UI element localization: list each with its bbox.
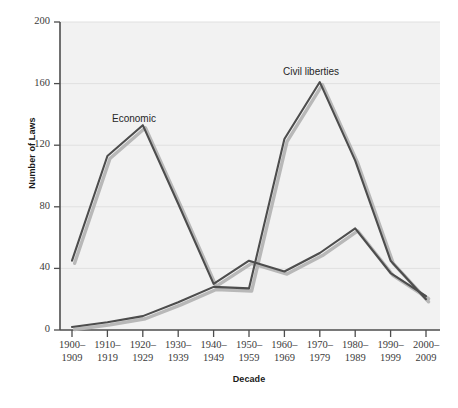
series-label-civil-liberties: Civil liberties: [283, 66, 339, 77]
x-tick-label-line2: 2009: [416, 352, 437, 363]
x-tick-label-line1: 2000–: [413, 339, 439, 350]
x-tick-label-line2: 1989: [345, 352, 366, 363]
x-tick-label: 2000–2009: [403, 339, 449, 364]
x-axis-title: Decade: [72, 374, 426, 384]
y-axis-title: Number of Laws: [27, 93, 37, 213]
x-tick-label-line1: 1990–: [377, 339, 403, 350]
x-tick-label-line1: 1950–: [236, 339, 262, 350]
x-tick-label-line2: 1999: [380, 352, 401, 363]
y-axis-ticks: [54, 22, 60, 330]
x-tick-label-line1: 1920–: [130, 339, 156, 350]
x-tick-label-line2: 1969: [274, 352, 295, 363]
x-tick-label-line2: 1929: [132, 352, 153, 363]
x-tick-label-line1: 1910–: [94, 339, 120, 350]
x-tick-label-line1: 1980–: [342, 339, 368, 350]
x-tick-label-line1: 1940–: [200, 339, 226, 350]
y-tick-label: 0: [10, 323, 50, 334]
x-tick-label-line1: 1900–: [59, 339, 85, 350]
x-tick-label-line2: 1949: [203, 352, 224, 363]
x-tick-label-line2: 1919: [97, 352, 118, 363]
x-tick-label-line1: 1930–: [165, 339, 191, 350]
y-tick-label: 40: [10, 261, 50, 272]
y-tick-label: 160: [10, 77, 50, 88]
x-tick-label-line1: 1960–: [271, 339, 297, 350]
x-axis-ticks: [72, 330, 426, 337]
line-chart: 04080120160200 1900–19091910–19191920–19…: [0, 0, 458, 408]
x-tick-label-line2: 1939: [168, 352, 189, 363]
x-tick-label-line2: 1909: [62, 352, 83, 363]
y-tick-label: 200: [10, 15, 50, 26]
x-tick-label-line2: 1959: [239, 352, 260, 363]
x-tick-label-line2: 1979: [309, 352, 330, 363]
series-label-economic: Economic: [112, 113, 156, 124]
x-tick-label-line1: 1970–: [307, 339, 333, 350]
